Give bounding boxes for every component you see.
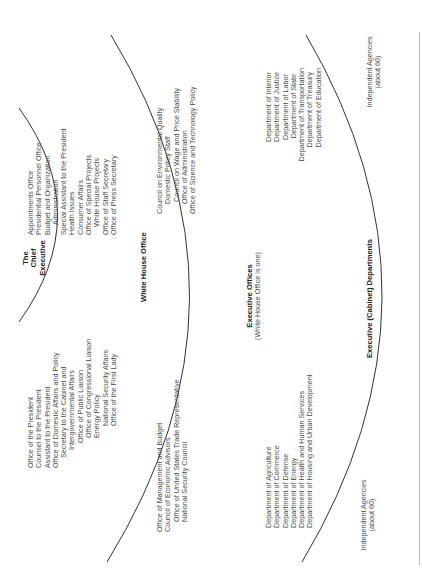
ring-sublabel: (White House Office is one) [254, 246, 262, 346]
list-item: National Security Council [181, 380, 189, 533]
ring-label: Executive (Cabinet) Departments [366, 239, 374, 358]
ring-label: White House Office [140, 232, 148, 302]
executive-offices-left-list: Office of Management and Budget Council … [156, 380, 189, 533]
cabinet-departments-right-list: Department of Interior Department of Jus… [265, 68, 323, 168]
list-item: Office of Press Secretary [110, 128, 118, 235]
cabinet-departments-left-list: Department of Agriculture Department of … [265, 374, 315, 528]
list-item: Department of Housing and Urban Developm… [306, 374, 314, 528]
white-house-office-right-list: Appointments Office Presidential Personn… [27, 128, 118, 235]
independent-agencies-left-label: Independent Agencies (about 60) [360, 475, 377, 555]
white-house-office-label: White House Office [140, 232, 148, 302]
label-line: (about 60) [374, 32, 382, 112]
list-item: Department of Education [315, 68, 323, 168]
cabinet-departments-label: Executive (Cabinet) Departments [366, 239, 374, 358]
white-house-office-left-list: Office of the President Counsel to the P… [27, 339, 118, 468]
page-edge-line [419, 32, 420, 565]
list-item: Office of the First Lady [110, 339, 118, 468]
label-line: (about 60) [368, 475, 376, 555]
executive-offices-right-list: Council on Environmental Quality Domesti… [156, 86, 197, 214]
label-line: Executive [39, 229, 47, 287]
executive-offices-label: Executive Offices (White House Office is… [246, 246, 263, 346]
list-item: Office of Science and Technology Policy [189, 86, 197, 214]
chief-executive-label: The Chief Executive [22, 229, 47, 287]
independent-agencies-right-label: Independent Agencies (about 60) [366, 32, 383, 112]
